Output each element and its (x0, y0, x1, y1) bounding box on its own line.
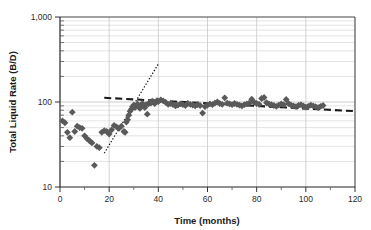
x-tick-label: 120 (348, 194, 362, 204)
x-tick-label: 60 (203, 194, 213, 204)
y-tick-label: 1,000 (31, 12, 53, 22)
chart-canvas: 101001,000 020406080100120 Time (months)… (0, 0, 371, 230)
x-axis-title: Time (months) (174, 215, 239, 226)
y-tick-label: 10 (43, 182, 53, 192)
y-tick-label: 100 (38, 97, 52, 107)
x-tick-label: 40 (154, 194, 164, 204)
x-tick-label: 0 (58, 194, 63, 204)
y-axis-title: Total Liquid Rate (B/D) (7, 51, 18, 153)
x-tick-label: 100 (299, 194, 313, 204)
chart-figure: 101001,000 020406080100120 Time (months)… (0, 0, 371, 230)
x-tick-label: 20 (104, 194, 114, 204)
x-tick-label: 80 (252, 194, 262, 204)
